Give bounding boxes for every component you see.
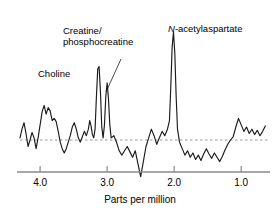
- x-axis-tick-label: 1.0: [234, 177, 248, 188]
- axis-group: [17, 166, 270, 172]
- annotation-creatine-phosphocreatine: Creatine/ phosphocreatine: [63, 25, 133, 47]
- creatine-leader-line: [106, 59, 121, 92]
- trace-group: [20, 32, 265, 177]
- spectrum-trace: [20, 32, 265, 177]
- x-axis-tick-label: 4.0: [33, 177, 47, 188]
- annotation-naa-italic-n: N: [168, 23, 175, 34]
- annotation-n-acetylaspartate: N-acetylaspartate: [168, 23, 242, 34]
- leader-line-group: [106, 59, 121, 92]
- annotation-choline: Choline: [38, 68, 70, 79]
- annotation-creatine-line2: phosphocreatine: [63, 36, 133, 47]
- x-axis-ticks: [40, 166, 241, 172]
- mrs-spectrum-figure: Choline Creatine/ phosphocreatine N-acet…: [0, 0, 280, 215]
- x-axis-tick-label: 2.0: [167, 177, 181, 188]
- annotation-choline-text: Choline: [38, 68, 70, 79]
- x-axis-tick-label: 3.0: [100, 177, 114, 188]
- x-axis-title: Parts per million: [0, 194, 280, 205]
- annotation-creatine-line1: Creatine/: [63, 25, 133, 36]
- annotation-naa-rest: -acetylaspartate: [175, 23, 243, 34]
